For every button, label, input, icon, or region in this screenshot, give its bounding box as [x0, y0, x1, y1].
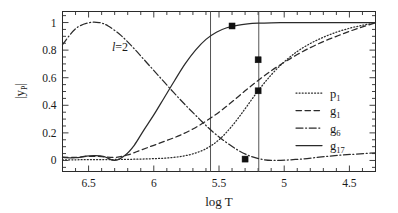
- data-marker-g_6: [242, 156, 248, 162]
- x-tick-label: 6: [151, 177, 157, 189]
- y-tick-labels: 00.20.40.60.81: [42, 17, 57, 167]
- svg-text:|yP|: |yP|: [12, 83, 29, 99]
- y-tick-label: 0: [51, 154, 57, 166]
- data-curves: [63, 22, 376, 160]
- y-tick-label: 0.6: [42, 72, 57, 84]
- y-tick-label: 0.2: [42, 127, 57, 139]
- y-tick-label: 0.8: [42, 44, 57, 56]
- data-marker-g_1: [255, 57, 261, 63]
- legend-label-p1: p1: [330, 87, 341, 103]
- x-tick-label: 4.5: [342, 177, 357, 189]
- l-value-annotation: l=2: [112, 40, 128, 54]
- data-marker-p_1: [255, 88, 261, 94]
- legend: p1g1g6g17: [296, 87, 345, 156]
- figure-container: 6.565.554.5 00.20.40.60.81 log T |yP| l=…: [0, 0, 398, 213]
- curve-p_1: [63, 23, 376, 160]
- data-point-markers: [229, 23, 261, 162]
- y-axis-title: |yP|: [12, 83, 29, 99]
- x-tick-labels: 6.565.554.5: [81, 177, 356, 189]
- y-tick-label: 0.4: [42, 99, 57, 111]
- x-tick-label: 5.5: [212, 177, 227, 189]
- legend-label-g17: g17: [330, 139, 345, 155]
- legend-label-g1: g1: [330, 104, 341, 120]
- data-marker-g_17: [229, 23, 235, 29]
- x-tick-label: 6.5: [81, 177, 96, 189]
- x-axis-title: log T: [205, 194, 233, 209]
- plot-canvas: 6.565.554.5 00.20.40.60.81 log T |yP| l=…: [0, 0, 398, 213]
- x-tick-label: 5: [281, 177, 287, 189]
- legend-label-g6: g6: [330, 122, 341, 138]
- y-tick-label: 1: [51, 17, 57, 29]
